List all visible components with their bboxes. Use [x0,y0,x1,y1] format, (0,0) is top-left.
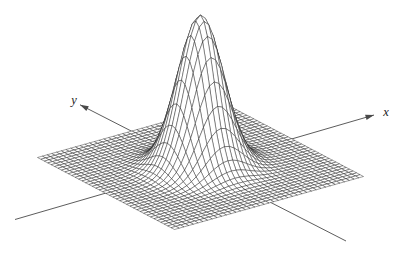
wireframe-surface-canvas [0,0,400,255]
x-axis-arrowhead-icon [365,115,374,120]
x-axis-label: x [383,106,389,119]
y-axis-arrowhead-icon [80,105,89,111]
surface-mesh [38,15,364,230]
gaussian-surface-figure: x y [0,0,400,255]
y-axis-label: y [71,94,77,107]
